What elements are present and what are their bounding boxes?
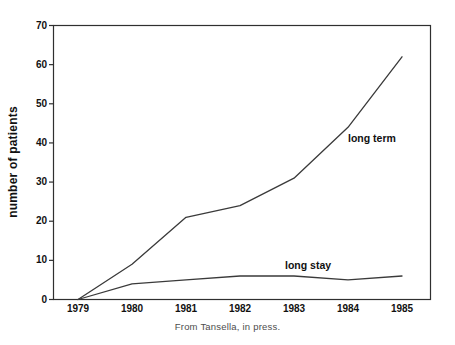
y-tick-label: 10: [20, 255, 47, 265]
plot-border: [54, 26, 431, 300]
y-tick-label: 50: [20, 99, 47, 109]
series-line-long-term: [78, 57, 402, 300]
series-line-long-stay: [78, 276, 402, 300]
y-axis-title: number of patients: [6, 97, 22, 227]
x-tick-label: 1984: [326, 304, 370, 314]
chart-figure: number of patients 010203040506070 19791…: [0, 0, 455, 345]
x-tick-label: 1981: [164, 304, 208, 314]
x-tick-label: 1985: [380, 304, 424, 314]
x-tick-label: 1982: [218, 304, 262, 314]
x-tick-label: 1980: [110, 304, 154, 314]
y-tick-label: 0: [20, 295, 47, 305]
y-tick-label: 30: [20, 177, 47, 187]
series-label-long-term: long term: [348, 132, 396, 144]
x-tick-label: 1979: [56, 304, 100, 314]
series-label-long-stay: long stay: [285, 259, 331, 271]
plot-area: [0, 0, 455, 345]
y-tick-label: 40: [20, 138, 47, 148]
figure-caption: From Tansella, in press.: [0, 321, 455, 332]
x-tick-label: 1983: [272, 304, 316, 314]
y-tick-label: 20: [20, 216, 47, 226]
y-tick-label: 70: [20, 21, 47, 31]
y-tick-label: 60: [20, 60, 47, 70]
